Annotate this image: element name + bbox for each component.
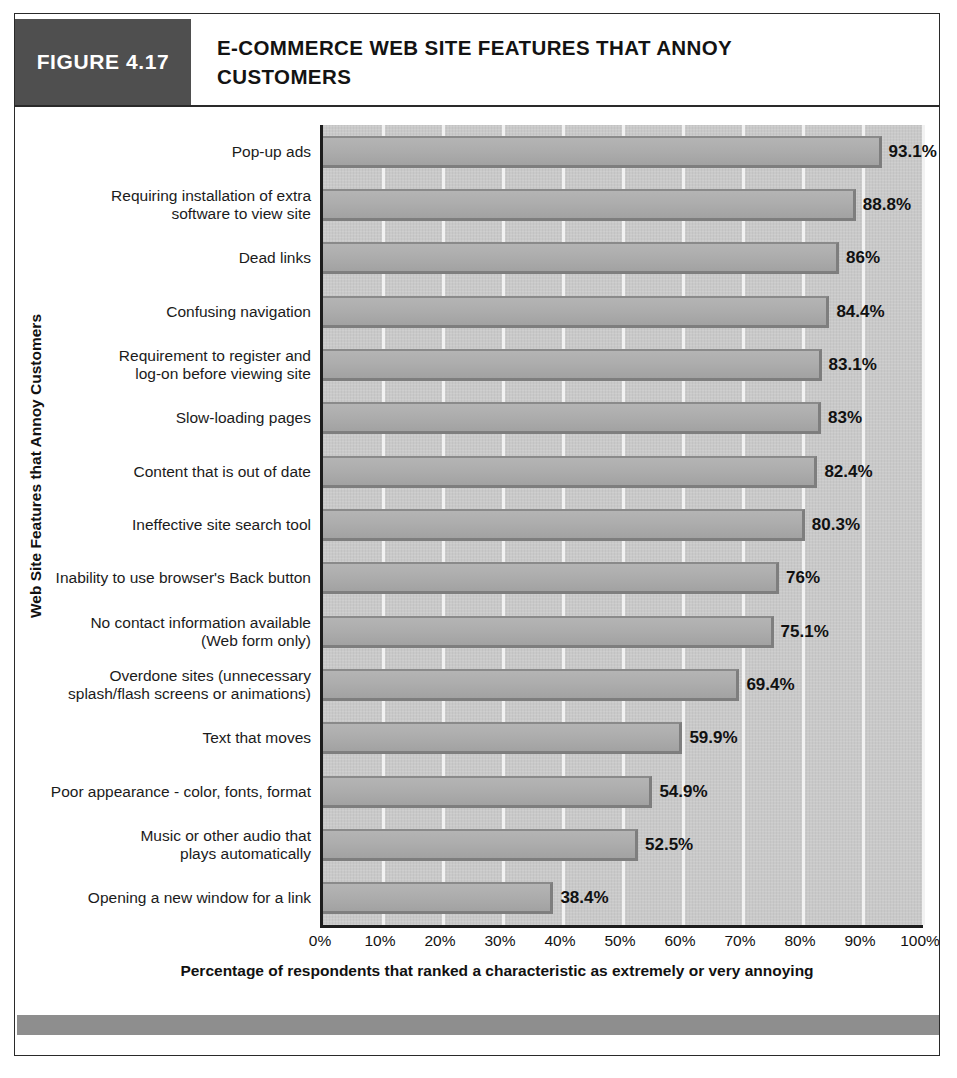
x-axis-title: Percentage of respondents that ranked a … [15, 962, 939, 980]
bar-value-label: 83% [821, 408, 862, 428]
bar-row: Text that moves59.9% [323, 722, 923, 754]
bar[interactable] [323, 722, 682, 754]
x-tick-label: 10% [364, 932, 395, 950]
bar-row: No contact information available (Web fo… [323, 616, 923, 648]
bar[interactable] [323, 242, 839, 274]
bar-value-label: 80.3% [805, 515, 860, 535]
bar-row: Dead links86% [323, 242, 923, 274]
bar[interactable] [323, 669, 739, 701]
category-label: Requiring installation of extra software… [0, 187, 311, 224]
figure-header: FIGURE 4.17 E-COMMERCE WEB SITE FEATURES… [15, 19, 939, 105]
chart-region: Web Site Features that Annoy Customers P… [15, 108, 939, 1000]
bar-row: Content that is out of date82.4% [323, 456, 923, 488]
bar-row: Poor appearance - color, fonts, format54… [323, 776, 923, 808]
bar-value-label: 54.9% [652, 781, 707, 801]
bar-value-label: 88.8% [856, 195, 911, 215]
figure-title-container: E-COMMERCE WEB SITE FEATURES THAT ANNOY … [191, 19, 939, 105]
bar[interactable] [323, 456, 817, 488]
category-label: Content that is out of date [0, 463, 311, 481]
bar-value-label: 69.4% [739, 675, 794, 695]
x-axis-ticks: 0%10%20%30%40%50%60%70%80%90%100% [320, 932, 920, 958]
bar-row: Music or other audio that plays automati… [323, 829, 923, 861]
x-tick-label: 70% [724, 932, 755, 950]
bar-value-label: 76% [779, 568, 820, 588]
bar-value-label: 83.1% [822, 355, 877, 375]
bar-row: Pop-up ads93.1% [323, 136, 923, 168]
category-label: Text that moves [0, 729, 311, 747]
bar[interactable] [323, 882, 553, 914]
footer-accent-bar [17, 1015, 939, 1035]
category-label: Pop-up ads [0, 143, 311, 161]
x-tick-label: 20% [424, 932, 455, 950]
bar-value-label: 75.1% [774, 621, 829, 641]
bar[interactable] [323, 509, 805, 541]
bar-row: Ineffective site search tool80.3% [323, 509, 923, 541]
x-tick-label: 50% [604, 932, 635, 950]
bar[interactable] [323, 136, 882, 168]
x-tick-label: 60% [664, 932, 695, 950]
category-label: Music or other audio that plays automati… [0, 827, 311, 864]
category-label: Slow-loading pages [0, 409, 311, 427]
bar[interactable] [323, 349, 822, 381]
category-label: Opening a new window for a link [0, 889, 311, 907]
plot-area: Pop-up ads93.1%Requiring installation of… [320, 125, 923, 928]
x-tick-label: 30% [484, 932, 515, 950]
category-label: Dead links [0, 249, 311, 267]
category-label: Ineffective site search tool [0, 516, 311, 534]
bar[interactable] [323, 189, 856, 221]
bar-row: Requiring installation of extra software… [323, 189, 923, 221]
bar[interactable] [323, 296, 829, 328]
header-divider [15, 105, 939, 107]
bar-value-label: 82.4% [817, 461, 872, 481]
bar-value-label: 84.4% [829, 301, 884, 321]
bar[interactable] [323, 402, 821, 434]
bar-row: Slow-loading pages83% [323, 402, 923, 434]
bar-row: Confusing navigation84.4% [323, 296, 923, 328]
bar[interactable] [323, 562, 779, 594]
x-tick-label: 100% [900, 932, 940, 950]
category-label: Confusing navigation [0, 303, 311, 321]
bar[interactable] [323, 776, 652, 808]
category-label: Requirement to register and log-on befor… [0, 347, 311, 384]
bar[interactable] [323, 829, 638, 861]
bar-row: Overdone sites (unnecessary splash/flash… [323, 669, 923, 701]
category-label: Inability to use browser's Back button [0, 569, 311, 587]
bar-row: Requirement to register and log-on befor… [323, 349, 923, 381]
bar-value-label: 86% [839, 248, 880, 268]
category-label: No contact information available (Web fo… [0, 613, 311, 650]
bar-value-label: 52.5% [638, 835, 693, 855]
page-title: E-COMMERCE WEB SITE FEATURES THAT ANNOY … [217, 33, 777, 91]
x-tick-label: 90% [844, 932, 875, 950]
bar-value-label: 38.4% [553, 888, 608, 908]
bar-value-label: 93.1% [882, 141, 937, 161]
bar-value-label: 59.9% [682, 728, 737, 748]
x-tick-label: 40% [544, 932, 575, 950]
bar-row: Opening a new window for a link38.4% [323, 882, 923, 914]
bar[interactable] [323, 616, 774, 648]
bar-row: Inability to use browser's Back button76… [323, 562, 923, 594]
x-tick-label: 80% [784, 932, 815, 950]
category-label: Overdone sites (unnecessary splash/flash… [0, 667, 311, 704]
x-tick-label: 0% [309, 932, 331, 950]
figure-number-label: FIGURE 4.17 [37, 50, 170, 74]
category-label: Poor appearance - color, fonts, format [0, 783, 311, 801]
